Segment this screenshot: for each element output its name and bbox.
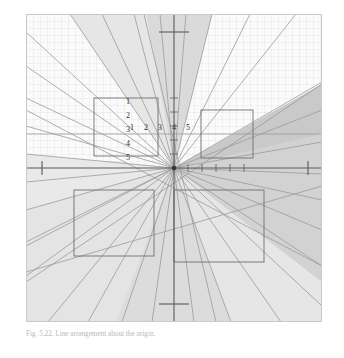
x-axis-label-4: 4 <box>172 124 176 132</box>
x-axis-label-2: 2 <box>144 124 148 132</box>
x-axis-label-1: 1 <box>130 124 134 132</box>
y-axis-label-5: 5 <box>126 154 130 162</box>
y-axis-label-4: 4 <box>126 140 130 148</box>
x-axis-label-5: 5 <box>186 124 190 132</box>
plot-area: 1 2 3 4 5 1 2 3 4 5 <box>26 14 322 322</box>
axes-layer <box>26 14 322 322</box>
figure-caption: Fig. 5.22. Line arrangement about the or… <box>26 330 326 339</box>
y-axis-label-1: 1 <box>126 98 130 106</box>
y-axis-label-2: 2 <box>126 112 130 120</box>
origin-point <box>172 166 176 170</box>
x-axis-label-3: 3 <box>158 124 162 132</box>
figure-root: 1 2 3 4 5 1 2 3 4 5 Fig. 5.22. Line arra… <box>0 0 344 358</box>
